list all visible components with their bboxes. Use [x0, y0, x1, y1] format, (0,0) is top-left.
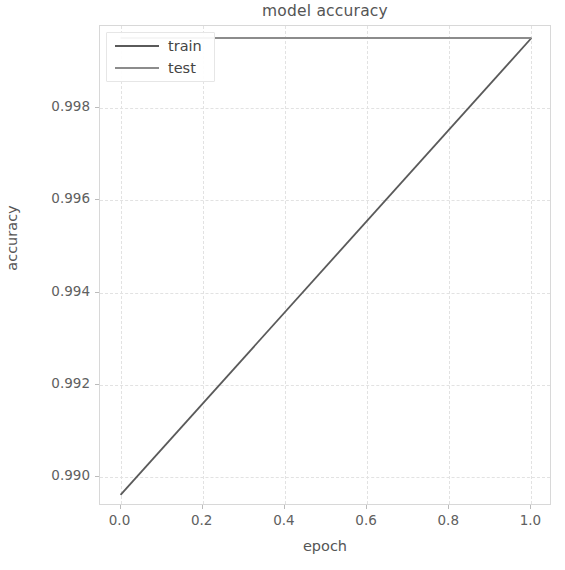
legend-label: train [168, 39, 202, 54]
tick-mark-x [530, 505, 531, 509]
x-tick-label: 0.6 [336, 512, 396, 528]
y-tick-label: 0.998 [10, 98, 90, 114]
tick-mark-x [284, 505, 285, 509]
y-tick-label: 0.994 [10, 283, 90, 299]
plot-area [99, 25, 551, 505]
tick-mark-y [95, 384, 99, 385]
series-lines [100, 26, 551, 505]
tick-mark-y [95, 107, 99, 108]
x-tick-label: 0.8 [418, 512, 478, 528]
x-tick-label: 0.2 [172, 512, 232, 528]
legend-line-icon [115, 67, 159, 69]
tick-mark-y [95, 476, 99, 477]
x-tick-label: 1.0 [500, 512, 560, 528]
tick-mark-y [95, 292, 99, 293]
tick-mark-x [202, 505, 203, 509]
chart-title: model accuracy [99, 2, 551, 20]
legend-line-icon [115, 45, 159, 47]
y-axis-label: accuracy [4, 178, 20, 298]
x-axis-label: epoch [99, 538, 551, 554]
y-tick-label: 0.992 [10, 375, 90, 391]
x-tick-label: 0.0 [90, 512, 150, 528]
tick-mark-x [448, 505, 449, 509]
legend-entry-test[interactable]: test [115, 61, 202, 76]
y-tick-label: 0.990 [10, 467, 90, 483]
series-line-train [121, 38, 532, 495]
chart-legend: traintest [106, 32, 215, 82]
tick-mark-x [366, 505, 367, 509]
x-tick-label: 0.4 [254, 512, 314, 528]
tick-mark-x [120, 505, 121, 509]
legend-entry-train[interactable]: train [115, 39, 202, 54]
y-tick-label: 0.996 [10, 190, 90, 206]
tick-mark-y [95, 199, 99, 200]
legend-label: test [168, 61, 196, 76]
matplotlib-figure: model accuracy 0.00.20.40.60.81.0 0.9900… [0, 0, 565, 570]
